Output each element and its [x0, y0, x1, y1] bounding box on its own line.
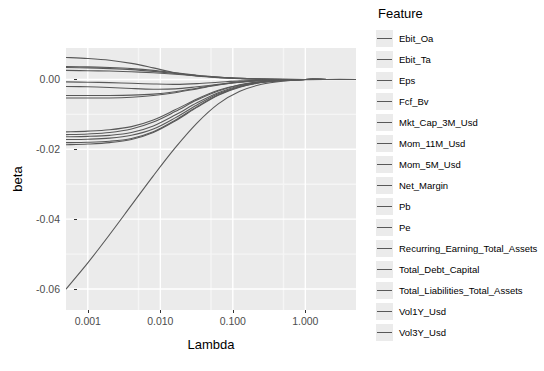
legend-item-label: Net_Margin [399, 180, 448, 191]
legend-item[interactable]: Ebit_Oa [376, 28, 544, 49]
legend-line-glyph [377, 185, 392, 186]
legend-line-glyph [377, 143, 392, 144]
x-tick-mark [233, 310, 234, 313]
x-tick-label: 1.000 [270, 316, 340, 327]
legend-key-icon [376, 219, 393, 236]
legend-key-icon [376, 324, 393, 341]
legend-item[interactable]: Pb [376, 196, 544, 217]
legend-line-glyph [377, 248, 392, 249]
legend-key-icon [376, 72, 393, 89]
legend-item-label: Vol1Y_Usd [399, 306, 446, 317]
legend-key-icon [376, 198, 393, 215]
x-tick-mark [88, 310, 89, 313]
legend-item-label: Total_Liabilities_Total_Assets [399, 285, 523, 296]
legend-key-icon [376, 261, 393, 278]
legend-item[interactable]: Eps [376, 70, 544, 91]
legend-item[interactable]: Mom_5M_Usd [376, 154, 544, 175]
legend-item[interactable]: Mkt_Cap_3M_Usd [376, 112, 544, 133]
x-axis-title: Lambda [66, 337, 356, 352]
legend-line-glyph [377, 38, 392, 39]
x-tick-label: 0.100 [198, 316, 268, 327]
legend-line-glyph [377, 269, 392, 270]
legend-line-glyph [377, 101, 392, 102]
x-tick-mark [305, 310, 306, 313]
legend-line-glyph [377, 332, 392, 333]
legend-item[interactable]: Recurring_Earning_Total_Assets [376, 238, 544, 259]
legend-line-glyph [377, 290, 392, 291]
x-tick-label: 0.010 [125, 316, 195, 327]
legend-key-icon [376, 282, 393, 299]
legend-item-label: Mom_5M_Usd [399, 159, 461, 170]
legend-item-label: Recurring_Earning_Total_Assets [399, 243, 537, 254]
legend-item[interactable]: Pe [376, 217, 544, 238]
legend-line-glyph [377, 122, 392, 123]
legend-item[interactable]: Total_Debt_Capital [376, 259, 544, 280]
legend-key-icon [376, 240, 393, 257]
legend-item-label: Ebit_Oa [399, 33, 433, 44]
legend-item[interactable]: Vol1Y_Usd [376, 301, 544, 322]
regularization-path-chart: beta 0.00-0.02-0.04-0.06 0.0010.0100.100… [0, 0, 544, 371]
legend-key-icon [376, 303, 393, 320]
legend-key-icon [376, 135, 393, 152]
legend-line-glyph [377, 311, 392, 312]
legend-item[interactable]: Net_Margin [376, 175, 544, 196]
legend-key-icon [376, 156, 393, 173]
legend: Feature Ebit_OaEbit_TaEpsFcf_BvMkt_Cap_3… [376, 6, 544, 343]
legend-line-glyph [377, 227, 392, 228]
x-axis-ticks: 0.0010.0100.1001.000 [0, 0, 372, 371]
legend-line-glyph [377, 206, 392, 207]
legend-key-icon [376, 177, 393, 194]
legend-item-list: Ebit_OaEbit_TaEpsFcf_BvMkt_Cap_3M_UsdMom… [376, 28, 544, 343]
legend-item-label: Mkt_Cap_3M_Usd [399, 117, 478, 128]
legend-item[interactable]: Vol3Y_Usd [376, 322, 544, 343]
legend-item[interactable]: Ebit_Ta [376, 49, 544, 70]
legend-line-glyph [377, 80, 392, 81]
legend-item-label: Vol3Y_Usd [399, 327, 446, 338]
legend-line-glyph [377, 164, 392, 165]
legend-key-icon [376, 51, 393, 68]
legend-key-icon [376, 114, 393, 131]
legend-item-label: Fcf_Bv [399, 96, 429, 107]
x-tick-label: 0.001 [53, 316, 123, 327]
legend-item[interactable]: Mom_11M_Usd [376, 133, 544, 154]
legend-item-label: Ebit_Ta [399, 54, 431, 65]
legend-item-label: Mom_11M_Usd [399, 138, 465, 149]
legend-item[interactable]: Total_Liabilities_Total_Assets [376, 280, 544, 301]
legend-key-icon [376, 30, 393, 47]
legend-line-glyph [377, 59, 392, 60]
plot-area: beta 0.00-0.02-0.04-0.06 0.0010.0100.100… [0, 0, 372, 371]
x-tick-mark [160, 310, 161, 313]
legend-item-label: Eps [399, 75, 415, 86]
legend-item-label: Total_Debt_Capital [399, 264, 479, 275]
legend-title: Feature [378, 6, 544, 22]
legend-item-label: Pb [399, 201, 411, 212]
legend-key-icon [376, 93, 393, 110]
legend-item[interactable]: Fcf_Bv [376, 91, 544, 112]
legend-item-label: Pe [399, 222, 411, 233]
